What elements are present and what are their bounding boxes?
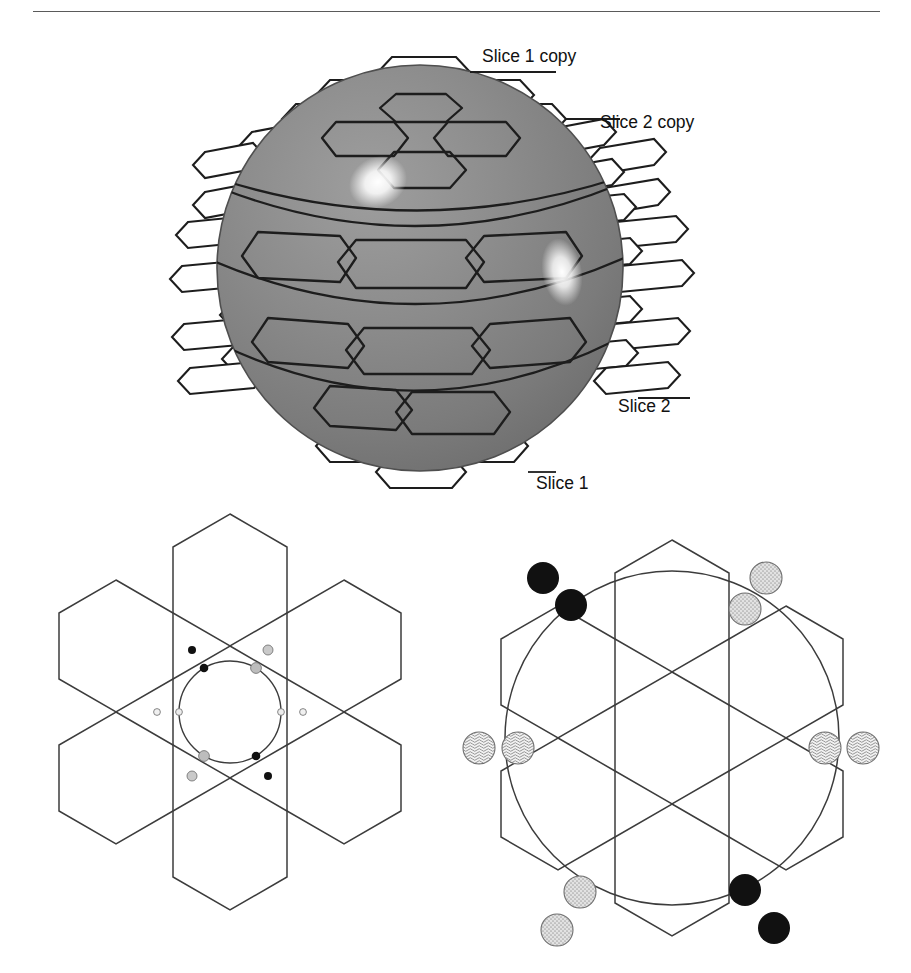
marker-on-circle — [278, 709, 285, 716]
hexagon — [615, 672, 729, 804]
marker-outside — [263, 645, 273, 655]
marker-discs-right — [463, 562, 879, 946]
marker-outside — [847, 732, 879, 764]
hexagon — [59, 712, 173, 844]
marker-on-circle — [176, 709, 183, 716]
hexagon — [615, 804, 729, 936]
label-slice-1-copy: Slice 1 copy — [482, 46, 577, 66]
inscribed-circle — [179, 661, 281, 763]
marker-on-circle — [502, 732, 534, 764]
circumscribed-circle — [505, 571, 839, 905]
label-slice-2: Slice 2 — [618, 396, 671, 416]
hex-cluster-right — [501, 540, 843, 936]
hexagon — [287, 580, 401, 712]
marker-on-circle — [564, 876, 596, 908]
marker-outside — [264, 772, 272, 780]
marker-outside — [188, 646, 196, 654]
marker-on-circle — [809, 732, 841, 764]
marker-on-circle — [555, 589, 587, 621]
hexagon — [59, 580, 173, 712]
figure-page: Slice 1 copy Slice 2 copy Slice 2 Slice … — [0, 0, 911, 973]
marker-on-circle — [199, 751, 210, 762]
marker-outside — [541, 914, 573, 946]
marker-outside — [527, 562, 559, 594]
marker-on-circle — [251, 663, 262, 674]
hexagon — [287, 712, 401, 844]
marker-outside — [750, 562, 782, 594]
hexagon — [615, 540, 729, 672]
label-slice-1: Slice 1 — [536, 473, 589, 493]
hexagon — [173, 778, 287, 910]
marker-outside — [154, 709, 161, 716]
marker-outside — [463, 732, 495, 764]
marker-dots-left — [154, 645, 307, 781]
marker-on-circle — [252, 752, 261, 761]
marker-outside — [187, 771, 197, 781]
hexagon — [173, 514, 287, 646]
figure-canvas: Slice 1 copy Slice 2 copy Slice 2 Slice … — [0, 0, 911, 973]
marker-outside — [300, 709, 307, 716]
label-slice-2-copy: Slice 2 copy — [600, 112, 695, 132]
marker-on-circle — [729, 874, 761, 906]
left-panel — [59, 514, 401, 910]
marker-on-circle — [729, 593, 761, 625]
hex-cluster-left — [59, 514, 401, 910]
marker-outside — [758, 912, 790, 944]
right-panel — [463, 540, 879, 946]
sphere-panel: Slice 1 copy Slice 2 copy Slice 2 Slice … — [170, 46, 695, 493]
marker-on-circle — [200, 664, 209, 673]
hexagon — [173, 646, 287, 778]
